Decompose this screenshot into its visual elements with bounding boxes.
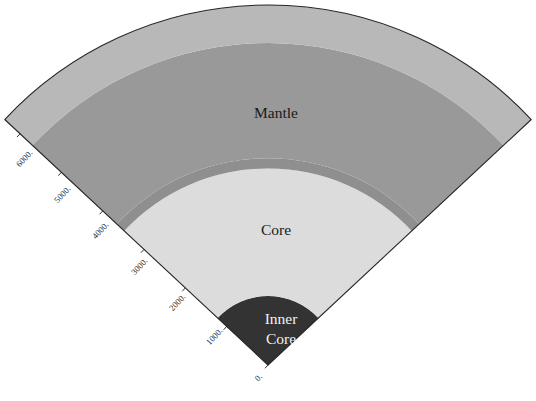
core-label: Core xyxy=(261,221,291,238)
wedge-diagram: 0.1000.2000.3000.4000.5000.6000. MantleC… xyxy=(0,0,536,401)
tick-label-3000: 3000. xyxy=(129,256,150,277)
inner-core-label-line2: Core xyxy=(266,330,296,347)
tick-label-6000: 6000. xyxy=(14,148,35,169)
tick-label-4000: 4000. xyxy=(90,220,111,241)
tick-mark-3000 xyxy=(141,249,144,252)
inner-core-label-line1: Inner xyxy=(265,310,299,327)
earth-cross-section-figure: 0.1000.2000.3000.4000.5000.6000. MantleC… xyxy=(0,0,536,401)
tick-label-1000: 1000. xyxy=(204,326,225,347)
tick-mark-4000 xyxy=(100,211,103,214)
tick-label-5000: 5000. xyxy=(52,184,73,205)
tick-mark-6000 xyxy=(17,134,20,137)
tick-label-2000: 2000. xyxy=(167,292,188,313)
tick-mark-5000 xyxy=(58,172,61,175)
tick-mark-0 xyxy=(265,365,268,368)
tick-label-0: 0. xyxy=(252,372,264,384)
tick-mark-2000 xyxy=(182,288,185,291)
mantle-label: Mantle xyxy=(254,104,298,121)
tick-mark-1000 xyxy=(224,326,227,329)
